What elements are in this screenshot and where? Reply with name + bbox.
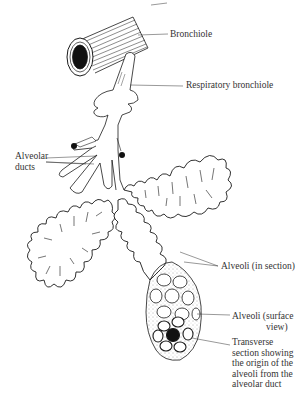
label-transverse-line5: alveolar duct [232,379,293,390]
label-alveoli-surface-view: Alveoli (surface view) [232,311,293,332]
label-transverse-line2: section showing [232,348,293,359]
label-alveolar-ducts: Alveolar ducts [15,151,48,172]
label-alveolar-ducts-line2: ducts [15,162,48,173]
alveolar-ducts-leaders [46,156,96,164]
alveolar-ducts [59,125,125,193]
bronchiole-tube [67,17,148,76]
label-transverse-line3: the origin of the [232,358,293,369]
label-bronchiole: Bronchiole [170,29,212,40]
label-transverse-line4: alveoli from the [232,369,293,380]
right-alveolar-sac [124,155,232,218]
label-alveoli-surface-line2: view) [232,322,293,333]
label-respiratory-bronchiole: Respiratory bronchiole [186,80,273,91]
left-alveolar-sac [27,199,115,287]
label-transverse-line1: Transverse [232,337,293,348]
label-transverse-section: Transverse section showing the origin of… [232,337,293,390]
label-alveolar-ducts-line1: Alveolar [15,151,48,162]
surface-alveoli-cluster [146,262,201,360]
label-alveoli-in-section: Alveoli (in section) [221,261,295,272]
label-alveoli-surface-line1: Alveoli (surface [232,311,293,322]
upper-bulges [94,90,138,125]
